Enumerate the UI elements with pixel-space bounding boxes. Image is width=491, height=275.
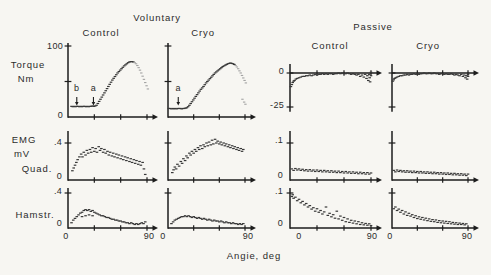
- row-label-mv: mV: [14, 148, 30, 159]
- ytick-pham-0: 0: [278, 218, 283, 228]
- xtick-c3-0: 0: [296, 231, 301, 241]
- xtick-c2-0: 0: [160, 231, 165, 241]
- panel-voluntary-cryo-torque: [165, 43, 256, 120]
- panel-voluntary-control-hamstr: [65, 188, 158, 231]
- xtick-c1-90: 90: [144, 231, 155, 241]
- panel-passive-cryo-torque: [389, 64, 479, 112]
- annotation-label-voluntary-control-torque-b: b: [74, 83, 79, 93]
- row-label-hamstr: Hamstr.: [15, 209, 54, 220]
- xtick-c1-0: 0: [63, 231, 68, 241]
- ytick-ham-04: .4: [54, 186, 62, 196]
- panel-passive-control-emg-quad: [287, 131, 382, 183]
- xtick-c4-90: 90: [462, 231, 473, 241]
- row-label-nm: Nm: [18, 73, 35, 84]
- figure-page: Voluntary Passive Control Cryo Control C…: [0, 0, 491, 275]
- ytick-torque-100: 100: [47, 41, 63, 51]
- annotation-label-voluntary-cryo-torque-a: a: [176, 83, 181, 93]
- annotation-label-voluntary-control-torque-a: a: [91, 83, 96, 93]
- col-label-passive-cryo: Cryo: [416, 40, 440, 51]
- ytick-pemg-0: 0: [278, 170, 283, 180]
- panel-voluntary-cryo-emg-quad: [165, 131, 256, 183]
- group-title-voluntary: Voluntary: [133, 12, 181, 23]
- panel-passive-control-torque: [287, 64, 382, 112]
- col-label-passive-control: Control: [312, 40, 349, 51]
- panel-passive-control-hamstr: [287, 188, 382, 231]
- ytick-pemg-01: .1: [275, 135, 283, 145]
- row-label-emg: EMG: [12, 134, 36, 145]
- panel-passive-cryo-emg-quad: [389, 131, 479, 183]
- panel-passive-cryo-hamstr: [389, 188, 479, 231]
- ytick-ham-0: 0: [57, 218, 62, 228]
- group-title-passive: Passive: [353, 21, 393, 32]
- ytick-emg-04: .4: [54, 137, 62, 147]
- panel-voluntary-control-torque: [65, 43, 158, 120]
- ytick-ptorque-0: 0: [279, 66, 284, 76]
- xtick-c3-90: 90: [367, 231, 378, 241]
- ytick-pham-01: .1: [275, 186, 283, 196]
- xtick-c4-0: 0: [387, 231, 392, 241]
- col-label-voluntary-cryo: Cryo: [191, 27, 215, 38]
- row-label-torque: Torque: [11, 59, 45, 70]
- panel-voluntary-cryo-hamstr: [165, 188, 256, 231]
- xtick-c2-90: 90: [243, 231, 254, 241]
- panel-voluntary-control-emg-quad: [65, 131, 158, 183]
- ytick-ptorque-neg25: -25: [270, 100, 284, 110]
- row-label-quad: Quad.: [22, 163, 52, 174]
- ytick-emg-0: 0: [57, 171, 62, 181]
- col-label-voluntary-control: Control: [83, 27, 120, 38]
- x-axis-title: Angie, deg: [227, 250, 281, 261]
- ytick-torque-0: 0: [58, 110, 63, 120]
